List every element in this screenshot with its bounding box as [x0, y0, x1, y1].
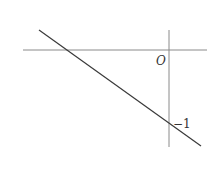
graph: O −1	[0, 0, 215, 182]
origin-label: O	[156, 54, 166, 68]
y-intercept-label: −1	[173, 117, 191, 131]
